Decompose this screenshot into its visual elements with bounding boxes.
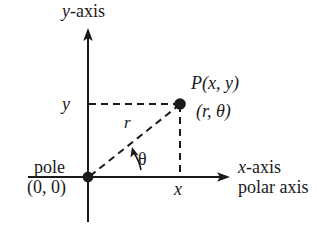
- x-value-label: x: [174, 180, 182, 199]
- polar-axis-label: polar axis: [238, 178, 308, 197]
- angle-label: θ: [138, 150, 147, 169]
- pole-point-marker: [83, 172, 94, 183]
- pole-label: pole: [34, 158, 65, 177]
- radius-dashed-line: [90, 106, 178, 176]
- point-p-marker: [174, 98, 186, 110]
- polar-coordinate-diagram: y-axis x-axis polar axis P(x, y) (r, θ) …: [0, 0, 323, 228]
- y-axis-label: y-axis: [62, 2, 105, 21]
- point-rectangular-label: P(x, y): [191, 74, 239, 93]
- y-value-label: y: [62, 95, 70, 114]
- origin-coordinates-label: (0, 0): [27, 178, 66, 197]
- x-axis-label: x-axis: [238, 158, 308, 177]
- radius-label: r: [124, 114, 131, 132]
- x-axis-label-block: x-axis polar axis: [238, 158, 308, 197]
- point-polar-label: (r, θ): [196, 102, 231, 121]
